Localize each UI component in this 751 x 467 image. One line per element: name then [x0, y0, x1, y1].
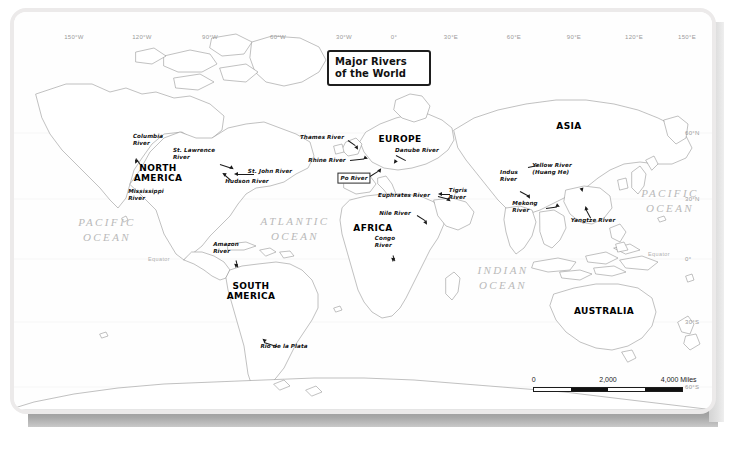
river-label-po: Po River — [337, 173, 370, 184]
river-label-thames: Thames River — [300, 134, 344, 141]
river-label-line: River — [449, 194, 467, 201]
ocean-label-line: ATLANTIC — [261, 214, 330, 229]
river-arrow-thames — [354, 145, 359, 150]
continent-label-europe: EUROPE — [378, 134, 421, 144]
map-title-box: Major Rivers of the World — [327, 50, 431, 86]
continent-label-line: EUROPE — [378, 134, 421, 144]
latitude-label: 60°N — [685, 130, 700, 136]
river-label-line: River — [500, 176, 518, 183]
latitude-label: 60°S — [685, 384, 699, 390]
page-sheet: 150°W 120°W 90°W 60°W 30°W 0° 30°E 60°E … — [0, 0, 751, 467]
river-label-line: River — [128, 195, 164, 202]
longitude-label: 60°W — [270, 34, 286, 40]
ocean-label-line: OCEAN — [477, 278, 528, 293]
ocean-label-indian: INDIAN OCEAN — [477, 263, 528, 293]
ocean-label-line: OCEAN — [261, 229, 330, 244]
river-label-yellow-huang-he: Yellow River (Huang He) — [532, 162, 572, 176]
river-label-mississippi: Mississippi River — [128, 188, 164, 202]
river-label-congo: Congo River — [375, 235, 395, 249]
river-label-line: River — [173, 154, 215, 161]
river-arrow-st-john — [234, 172, 238, 176]
river-arrow-amazon — [234, 264, 238, 268]
river-label-line: (Huang He) — [532, 169, 572, 176]
continent-label-africa: AFRICA — [353, 223, 392, 233]
ocean-label-line: OCEAN — [641, 201, 699, 216]
scale-tick-label: 0 — [532, 376, 536, 383]
continent-label-line: AMERICA — [227, 291, 276, 301]
scale-bar-segment — [645, 388, 682, 391]
river-label-line: Thames River — [300, 134, 344, 141]
river-arrow-mekong — [555, 203, 560, 208]
ocean-label-atlantic: ATLANTIC OCEAN — [261, 214, 330, 244]
river-leader-rhine — [350, 159, 364, 161]
river-label-line: Yangtze River — [571, 217, 616, 224]
river-arrow-danube — [392, 159, 398, 165]
river-label-line: Po River — [340, 175, 367, 182]
longitude-label: 120°E — [625, 34, 643, 40]
continent-label-australia: AUSTRALIA — [574, 306, 634, 316]
river-label-line: River — [213, 248, 239, 255]
continent-label-line: AMERICA — [134, 173, 183, 183]
longitude-label: 30°E — [444, 34, 458, 40]
river-label-line: Yellow River — [532, 162, 572, 169]
river-label-st-lawrence: St. Lawrence River — [173, 147, 215, 161]
river-label-line: River — [375, 242, 395, 249]
river-label-mekong: Mekong River — [512, 200, 537, 214]
ocean-label-pacific-west: PACIFIC OCEAN — [641, 186, 699, 216]
river-label-line: Danube River — [395, 147, 439, 154]
scale-bar-labels: 0 2,000 4,000 Miles — [533, 376, 683, 386]
scale-bar-segment — [534, 388, 571, 391]
river-label-tigris: Tigris River — [449, 187, 467, 201]
river-label-line: Congo — [375, 235, 395, 242]
river-arrow-tigris — [438, 192, 442, 196]
scale-bar-track — [533, 387, 683, 392]
continent-label-line: SOUTH — [227, 281, 276, 291]
longitude-label: 90°W — [202, 34, 218, 40]
river-arrow-st-lawrence — [229, 165, 235, 171]
river-label-nile: Nile River — [379, 210, 411, 217]
river-arrow-nile — [423, 220, 428, 225]
continent-label-south-america: SOUTH AMERICA — [227, 281, 276, 301]
river-label-line: Indus — [500, 169, 518, 176]
river-label-yangtze: Yangtze River — [571, 217, 616, 224]
river-label-line: Rhine River — [308, 157, 345, 164]
continent-label-line: AUSTRALIA — [574, 306, 634, 316]
graticule-lines — [14, 133, 712, 387]
ocean-label-line: INDIAN — [477, 263, 528, 278]
ocean-label-pacific-east: PACIFIC OCEAN — [78, 215, 136, 245]
scale-bar-segment — [608, 388, 645, 391]
river-label-line: St. Lawrence — [173, 147, 215, 154]
longitude-label: 150°W — [64, 34, 84, 40]
scale-tick-label: 4,000 Miles — [661, 376, 697, 383]
map-scale-bar: 0 2,000 4,000 Miles — [533, 376, 683, 392]
river-arrow-congo — [391, 258, 395, 262]
river-label-line: Mekong — [512, 200, 537, 207]
river-label-st-john: St. John River — [248, 168, 292, 175]
continent-label-north-america: NORTH AMERICA — [134, 163, 183, 183]
ocean-label-line: PACIFIC — [78, 215, 136, 230]
latitude-label: 0° — [685, 256, 691, 262]
map-title-line-1: Major Rivers — [335, 56, 423, 68]
river-arrow-indus — [526, 194, 531, 199]
ocean-label-line: OCEAN — [78, 230, 136, 245]
continent-label-line: AFRICA — [353, 223, 392, 233]
river-arrow-yangtze — [584, 206, 589, 211]
scale-tick-label: 2,000 — [599, 376, 617, 383]
continent-label-line: ASIA — [556, 121, 581, 131]
river-label-euphrates: Euphrates River — [378, 192, 430, 199]
river-leader-st-john — [236, 174, 254, 175]
world-map-card: 150°W 120°W 90°W 60°W 30°W 0° 30°E 60°E … — [10, 8, 716, 414]
equator-label: Equator — [148, 256, 170, 262]
ocean-label-line: PACIFIC — [641, 186, 699, 201]
river-arrow-rhine — [363, 155, 368, 160]
longitude-label: 150°E — [678, 34, 696, 40]
river-leader-po — [370, 171, 379, 177]
longitude-label: 90°E — [567, 34, 581, 40]
river-label-rhine: Rhine River — [308, 157, 345, 164]
equator-label: Equator — [648, 251, 670, 257]
river-arrow-yellow — [580, 188, 585, 193]
river-label-columbia: Columbia River — [133, 133, 163, 147]
latitude-label: 30°S — [685, 319, 699, 325]
river-label-line: Hudson River — [225, 178, 268, 185]
river-leader-thames — [348, 140, 356, 146]
